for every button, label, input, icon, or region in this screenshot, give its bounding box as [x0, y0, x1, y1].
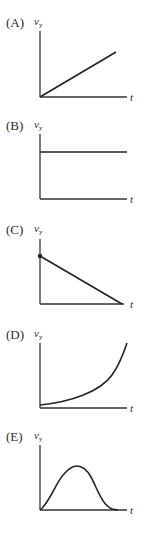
x-axis-label-e: t: [130, 504, 134, 516]
y-axis-label-e: vy: [34, 429, 43, 443]
graph-a: (A) vy t: [6, 15, 134, 103]
x-axis-label-c: t: [130, 298, 134, 310]
start-point-dot-c: [38, 254, 42, 258]
x-axis-label-b: t: [130, 193, 134, 205]
curve-a: [40, 52, 116, 97]
graph-e: (E) vy t: [6, 429, 134, 516]
y-axis-label-d: vy: [34, 327, 43, 341]
option-label-a: (A): [6, 15, 24, 30]
curve-c: [40, 256, 122, 304]
option-label-d: (D): [6, 327, 24, 342]
option-label-e: (E): [6, 429, 23, 444]
graph-c: (C) vy t: [6, 222, 134, 310]
y-axis-label-b: vy: [34, 118, 43, 132]
velocity-graphs-diagram: (A) vy t (B) vy t (C) vy t (D) vy t (E) …: [0, 0, 153, 534]
x-axis-label-a: t: [130, 91, 134, 103]
y-axis-label-a: vy: [34, 15, 43, 29]
graph-b: (B) vy t: [6, 118, 134, 205]
x-axis-label-d: t: [130, 402, 134, 414]
option-label-c: (C): [6, 222, 23, 237]
option-label-b: (B): [6, 118, 23, 133]
graph-d: (D) vy t: [6, 327, 134, 414]
y-axis-label-c: vy: [34, 222, 43, 236]
curve-e: [40, 466, 118, 510]
curve-d: [40, 343, 127, 405]
